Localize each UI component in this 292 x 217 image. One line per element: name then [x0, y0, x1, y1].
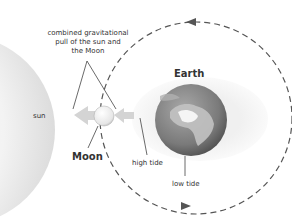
combined-pull-label: combined gravitational pull of the sun a… — [46, 29, 130, 56]
low-tide-label: low tide — [172, 180, 200, 189]
orbit-arrow-top-icon — [186, 18, 196, 26]
combined-pull-line-2: pull of the sun and — [46, 38, 130, 47]
earth — [155, 84, 227, 156]
combined-pull-line-3: the Moon — [46, 47, 130, 56]
gravity-arrow-right-icon — [114, 108, 134, 123]
earth-label: Earth — [174, 68, 204, 79]
moon — [94, 106, 114, 126]
sun — [0, 35, 55, 217]
sun-label: sun — [33, 112, 46, 121]
orbit-arrow-bottom-icon — [181, 202, 191, 210]
moon-label: Moon — [72, 151, 103, 162]
high-tide-label: high tide — [132, 159, 163, 168]
tides-diagram: combined gravitational pull of the sun a… — [0, 0, 292, 217]
combined-pull-line-1: combined gravitational — [46, 29, 130, 38]
